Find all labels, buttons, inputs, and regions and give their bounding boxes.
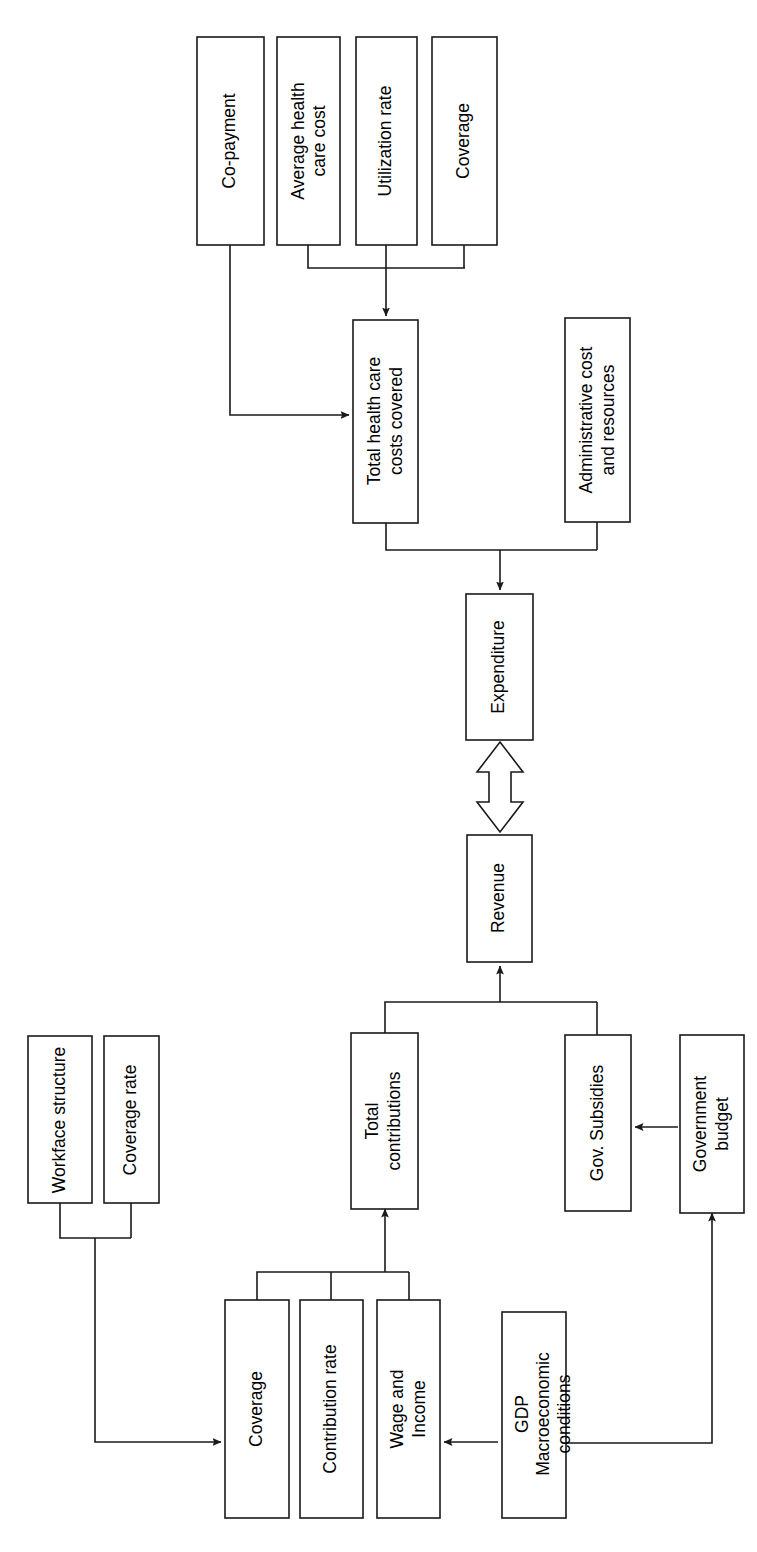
node-government-budget-label-line1: Government <box>690 1076 710 1172</box>
node-gdp-macroeconomic-conditions-label-line2: Macroeconomic <box>533 1352 553 1476</box>
node-average-health-care-cost-label-line1: Average health <box>288 82 308 199</box>
node-government-budget[interactable]: Government budget <box>680 1035 744 1213</box>
double-headed-arrow-icon <box>477 742 523 832</box>
node-average-health-care-cost[interactable]: Average health care cost <box>277 37 340 245</box>
edge-coverage-bottom-to-bus <box>257 1272 409 1300</box>
node-co-payment[interactable]: Co-payment <box>197 37 264 245</box>
node-contribution-rate-label: Contribution rate <box>320 1344 340 1473</box>
edge-workface-structure-to-bus <box>60 1203 131 1238</box>
node-administrative-cost-and-resources-label-line1: Administrative cost <box>576 346 596 493</box>
node-expenditure-label: Expenditure <box>488 620 508 713</box>
edge-gdp-to-government-budget[interactable] <box>566 1213 712 1443</box>
node-revenue[interactable]: Revenue <box>467 835 532 962</box>
node-total-health-care-costs-covered[interactable]: Total health care costs covered <box>353 320 418 523</box>
node-coverage-rate-label: Coverage rate <box>120 1065 140 1176</box>
node-workface-structure-label: Workface structure <box>49 1047 69 1194</box>
node-co-payment-label: Co-payment <box>219 93 239 188</box>
edge-total-costs-to-bus <box>386 523 597 550</box>
node-workface-structure[interactable]: Workface structure <box>28 1036 92 1203</box>
node-coverage-top[interactable]: Coverage <box>432 37 497 245</box>
node-gov-subsidies-label: Gov. Subsidies <box>587 1065 607 1182</box>
node-gov-subsidies[interactable]: Gov. Subsidies <box>565 1035 631 1211</box>
node-wage-and-income-label-line2: Income <box>409 1380 429 1437</box>
edge-co-payment-to-total-costs[interactable] <box>230 245 349 415</box>
node-coverage-bottom[interactable]: Coverage <box>225 1300 289 1518</box>
node-contribution-rate[interactable]: Contribution rate <box>300 1300 363 1518</box>
node-revenue-label: Revenue <box>488 863 508 933</box>
node-total-health-care-costs-covered-label-line1: Total health care <box>364 357 384 485</box>
node-government-budget-label-line2: budget <box>712 1097 732 1151</box>
flowchart-svg: Co-payment Average health care cost Util… <box>0 0 757 1552</box>
node-coverage-top-label: Coverage <box>453 103 473 179</box>
node-gdp-macroeconomic-conditions-label-line1: GDP <box>512 1395 532 1433</box>
node-wage-and-income-label-line1: Wage and <box>387 1369 407 1448</box>
diagram-canvas: Co-payment Average health care cost Util… <box>0 0 757 1552</box>
node-wage-and-income[interactable]: Wage and Income <box>377 1300 440 1518</box>
node-administrative-cost-and-resources[interactable]: Administrative cost and resources <box>565 318 630 522</box>
node-utilization-rate-label: Utilization rate <box>375 86 395 197</box>
node-administrative-cost-and-resources-label-line2: and resources <box>598 364 618 475</box>
node-coverage-bottom-label: Coverage <box>246 1371 266 1447</box>
node-average-health-care-cost-label-line2: care cost <box>309 105 329 176</box>
edge-bus-to-coverage-bottom[interactable] <box>95 1238 221 1442</box>
node-total-contributions-label-line2: contributions <box>384 1071 404 1170</box>
node-gdp-macroeconomic-conditions-label-line3: conditions <box>554 1374 574 1453</box>
edge-total-contributions-to-bus <box>385 1002 597 1033</box>
node-coverage-rate[interactable]: Coverage rate <box>104 1036 159 1203</box>
node-expenditure[interactable]: Expenditure <box>466 594 533 740</box>
node-total-contributions-label-line1: Total <box>362 1103 382 1140</box>
node-total-contributions[interactable]: Total contributions <box>351 1033 418 1209</box>
node-total-health-care-costs-covered-label-line2: costs covered <box>386 367 406 475</box>
node-gdp-macroeconomic-conditions[interactable]: GDP Macroeconomic conditions <box>502 1312 574 1518</box>
node-utilization-rate[interactable]: Utilization rate <box>356 37 417 245</box>
